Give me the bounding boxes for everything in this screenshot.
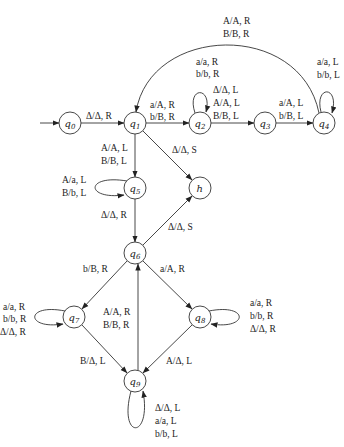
state-q2: q2 xyxy=(189,112,211,134)
label-q4-loop: b/b, L xyxy=(317,70,340,80)
svg-text:h: h xyxy=(197,183,203,194)
edge-q6-h xyxy=(143,196,192,245)
edge-q7-loop xyxy=(35,310,65,325)
state-q9: q9 xyxy=(124,370,146,392)
label-q1-q5: A/A, L xyxy=(101,143,128,153)
label-q1-q2: b/B, R xyxy=(150,112,175,122)
label-q3-q4: b/B, L xyxy=(279,111,303,121)
state-q3: q3 xyxy=(254,112,276,134)
edge-q1-h xyxy=(143,131,192,180)
label-q8-loop: b/b, R xyxy=(250,311,274,321)
state-q8: q8 xyxy=(189,306,211,328)
label-q2-q3: A/A, L xyxy=(213,98,240,108)
label-q7-loop: b/b, R xyxy=(3,314,27,324)
label-q8-loop: a/a, R xyxy=(250,298,273,308)
label-q2-q3: Δ/Δ, L xyxy=(213,85,239,95)
state-q5: q5 xyxy=(124,177,146,199)
label-q4-loop: a/a, L xyxy=(317,57,339,67)
label-q6-q8: a/A, R xyxy=(160,264,185,274)
label-q6-h: Δ/Δ, S xyxy=(168,222,193,232)
label-q1-h: Δ/Δ, S xyxy=(172,145,197,155)
edge-q8-loop xyxy=(209,310,239,325)
label-q9-loop: Δ/Δ, L xyxy=(155,403,181,413)
edge-labels: Δ/Δ, R a/A, R b/B, R a/a, R b/b, R Δ/Δ, … xyxy=(0,16,340,439)
label-q9-loop: a/a, L xyxy=(155,416,177,426)
state-q4: q4 xyxy=(313,112,335,134)
label-q5-loop: A/a, L xyxy=(62,175,86,185)
label-q5-q6: Δ/Δ, R xyxy=(101,210,128,220)
edge-q4-loop xyxy=(320,92,334,113)
label-q3-q4: a/A, L xyxy=(279,98,303,108)
label-q4-q1: A/A, R xyxy=(223,16,251,26)
label-q7-loop: a/a, R xyxy=(3,302,26,312)
nodes: q0 q1 q2 q3 q4 q5 h q6 xyxy=(59,112,335,392)
state-q6: q6 xyxy=(124,242,146,264)
state-q1: q1 xyxy=(124,112,146,134)
label-q8-loop: Δ/Δ, R xyxy=(250,324,277,334)
label-q1-q2: a/A, R xyxy=(150,100,175,110)
label-q2-q3: B/B, L xyxy=(213,111,239,121)
label-q9-q6: A/A, R xyxy=(103,307,131,317)
label-q7-q9: B/Δ, L xyxy=(80,356,106,366)
label-q9-loop: b/b, L xyxy=(155,429,178,439)
edge-q5-loop xyxy=(95,180,127,196)
state-h-halt: h xyxy=(189,177,211,199)
label-q9-q6: B/B, R xyxy=(103,320,130,330)
label-q7-loop: Δ/Δ, R xyxy=(0,327,27,337)
label-q2-loop: a/a, R xyxy=(196,57,219,67)
label-q5-loop: B/b, L xyxy=(62,188,86,198)
state-q7: q7 xyxy=(63,306,85,328)
label-q0-q1: Δ/Δ, R xyxy=(86,111,113,121)
label-q6-q7: b/B, R xyxy=(83,264,108,274)
edge-q9-loop xyxy=(128,391,145,428)
edge-q2-loop xyxy=(193,93,207,113)
label-q4-q1: B/B, R xyxy=(223,29,250,39)
label-q8-q9: A/Δ, L xyxy=(166,356,192,366)
label-q2-loop: b/b, R xyxy=(196,69,220,79)
state-diagram: q0 q1 q2 q3 q4 q5 h q6 xyxy=(0,0,344,447)
state-q0: q0 xyxy=(59,112,81,134)
label-q1-q5: B/B, L xyxy=(101,156,127,166)
